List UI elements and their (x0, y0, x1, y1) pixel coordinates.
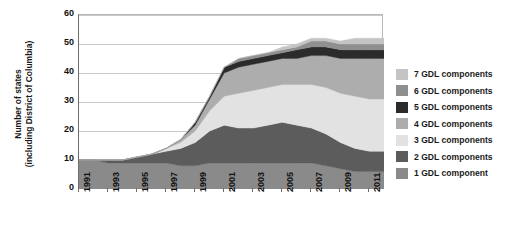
x-tick-label: 2005 (285, 172, 295, 192)
x-tick-mark (252, 188, 253, 192)
x-tick-label: 1993 (111, 172, 121, 192)
legend-item[interactable]: 1 GDL component (396, 165, 513, 182)
legend-item-label: 3 GDL components (414, 135, 493, 145)
x-tick-mark (165, 188, 166, 192)
x-tick-mark (281, 188, 282, 192)
x-tick-label: 1991 (82, 172, 92, 192)
legend-item[interactable]: 5 GDL components (396, 99, 513, 116)
x-tick-label: 1995 (140, 172, 150, 192)
chart-figure: Number of states (including District of … (0, 0, 513, 232)
legend-swatch-icon (396, 69, 408, 80)
legend-swatch-icon (396, 118, 408, 129)
x-tick-mark (368, 188, 369, 192)
x-tick-mark (136, 188, 137, 192)
legend-item-label: 4 GDL components (414, 119, 493, 129)
legend-item[interactable]: 3 GDL components (396, 132, 513, 149)
x-tick-mark (194, 188, 195, 192)
legend-item[interactable]: 4 GDL components (396, 116, 513, 133)
legend-item-label: 1 GDL component (414, 168, 488, 178)
legend-swatch-icon (396, 102, 408, 113)
x-tick-label: 2001 (227, 172, 237, 192)
x-tick-label: 1997 (169, 172, 179, 192)
x-tick-mark (223, 188, 224, 192)
x-tick-label: 2007 (314, 172, 324, 192)
legend-swatch-icon (396, 168, 408, 179)
x-tick-label: 2003 (256, 172, 266, 192)
legend-swatch-icon (396, 85, 408, 96)
x-tick-mark (107, 188, 108, 192)
x-tick-mark (78, 188, 79, 192)
chart-legend: 7 GDL components6 GDL components5 GDL co… (396, 66, 513, 182)
legend-item[interactable]: 6 GDL components (396, 83, 513, 100)
x-tick-label: 2011 (372, 172, 382, 192)
legend-item-label: 5 GDL components (414, 102, 493, 112)
x-tick-label: 2009 (343, 172, 353, 192)
legend-swatch-icon (396, 135, 408, 146)
legend-swatch-icon (396, 151, 408, 162)
legend-item-label: 6 GDL components (414, 86, 493, 96)
legend-item-label: 2 GDL components (414, 152, 493, 162)
x-tick-mark (339, 188, 340, 192)
x-tick-mark (310, 188, 311, 192)
x-tick-label: 1999 (198, 172, 208, 192)
legend-item[interactable]: 2 GDL components (396, 149, 513, 166)
legend-item[interactable]: 7 GDL components (396, 66, 513, 83)
legend-item-label: 7 GDL components (414, 69, 493, 79)
